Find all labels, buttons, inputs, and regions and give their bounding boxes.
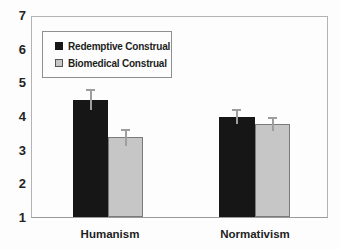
y-axis-tick-4: 4: [0, 110, 26, 124]
category-label-humanism: Humanism: [81, 228, 140, 240]
bar-biomedical-humanism: [108, 137, 143, 217]
error-bar-whisker: [90, 90, 92, 110]
bar-chart-figure: 7 6 5 4 3 2 1 Redemptive Construal Biome: [0, 0, 340, 249]
legend-item-biomedical: Biomedical Construal: [55, 58, 171, 69]
y-axis-tick-5: 5: [0, 76, 26, 90]
error-bar-cap: [268, 117, 277, 119]
bar-biomedical-normativism: [255, 124, 290, 217]
y-axis-tick-3: 3: [0, 144, 26, 158]
legend-marker-redemptive: [55, 42, 63, 50]
y-axis-tick-1: 1: [0, 211, 26, 225]
legend-label-redemptive: Redemptive Construal: [68, 41, 170, 52]
bar-redemptive-humanism: [73, 100, 108, 217]
legend: Redemptive Construal Biomedical Construa…: [42, 31, 172, 78]
error-bar-cap: [121, 129, 130, 131]
y-axis-tick-7: 7: [0, 9, 26, 23]
bar-redemptive-normativism: [219, 117, 255, 217]
legend-item-redemptive: Redemptive Construal: [55, 41, 171, 52]
error-bar-whisker: [125, 130, 127, 147]
y-axis-tick-6: 6: [0, 43, 26, 57]
category-label-normativism: Normativism: [220, 228, 290, 240]
error-bar-cap: [86, 89, 95, 91]
legend-label-biomedical: Biomedical Construal: [68, 58, 167, 69]
legend-marker-biomedical: [55, 59, 63, 67]
y-axis-tick-2: 2: [0, 177, 26, 191]
error-bar-whisker: [272, 118, 274, 131]
error-bar-cap: [232, 109, 241, 111]
error-bar-whisker: [236, 110, 238, 123]
